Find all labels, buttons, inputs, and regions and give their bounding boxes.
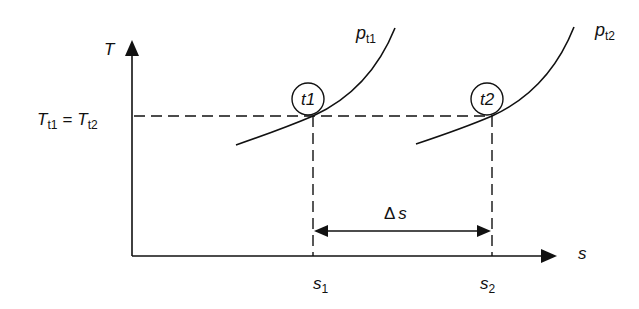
temperature-level-label: Tt1=Tt2 xyxy=(37,110,98,132)
t-sub-left: t1 xyxy=(47,118,57,132)
y-axis-arrow-icon xyxy=(125,40,139,56)
svg-text:pt1: pt1 xyxy=(355,23,376,46)
y-axis: T xyxy=(104,40,139,256)
pt1-label: p xyxy=(355,23,366,43)
delta-var: s xyxy=(398,204,407,223)
t2-label: t2 xyxy=(480,90,495,109)
svg-text:Δs: Δs xyxy=(384,204,407,223)
delta-left-arrow-icon xyxy=(314,225,328,237)
delta-symbol: Δ xyxy=(384,204,395,223)
pt2-label: p xyxy=(594,20,605,40)
t1-label: t1 xyxy=(301,90,315,109)
svg-text:Tt1=Tt2: Tt1=Tt2 xyxy=(37,110,98,132)
s1-sub: 1 xyxy=(322,282,329,296)
equals-sign: = xyxy=(62,110,72,129)
isobar-pt2: pt2 xyxy=(416,20,615,144)
x-axis: s xyxy=(132,244,587,263)
ts-diagram: T s Tt1=Tt2 pt1 pt2 t1 t2 xyxy=(0,0,639,309)
pt2-sub: t2 xyxy=(605,29,615,43)
delta-right-arrow-icon xyxy=(477,225,491,237)
pt1-sub: t1 xyxy=(366,32,376,46)
svg-text:s2: s2 xyxy=(480,274,496,296)
state-point-t1: t1 xyxy=(292,83,324,115)
x-axis-label: s xyxy=(578,244,587,263)
y-axis-label: T xyxy=(104,40,116,59)
svg-text:s1: s1 xyxy=(313,274,329,296)
state-point-t2: t2 xyxy=(471,83,503,115)
delta-s-dimension: Δs xyxy=(314,204,491,237)
isobar-pt1: pt1 xyxy=(236,23,395,145)
x-axis-arrow-icon xyxy=(541,249,557,263)
t-sub-right: t2 xyxy=(88,118,98,132)
s2-sub: 2 xyxy=(489,282,496,296)
svg-text:pt2: pt2 xyxy=(594,20,615,43)
